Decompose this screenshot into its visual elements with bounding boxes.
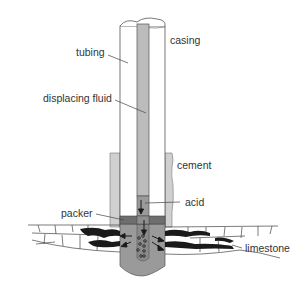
- label-packer: packer: [61, 207, 93, 219]
- label-acid: acid: [185, 196, 204, 208]
- label-casing: casing: [170, 34, 201, 46]
- packer: [120, 216, 165, 224]
- label-cement: cement: [177, 159, 212, 171]
- well-diagram: casing tubing displacing fluid cement ac…: [0, 0, 302, 285]
- label-displacing-fluid: displacing fluid: [43, 92, 112, 104]
- label-tubing: tubing: [76, 46, 105, 58]
- label-limestone: limestone: [245, 242, 290, 254]
